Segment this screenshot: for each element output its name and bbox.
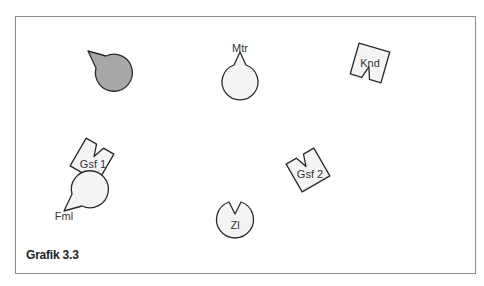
shape-unlabeled-circle: [88, 51, 132, 91]
shape-fml-circle: Fml: [55, 171, 109, 222]
shape-label-gsf2: Gsf 2: [297, 168, 323, 180]
shape-zl-circle: Zl: [217, 202, 254, 238]
shape-label-knd: Knd: [360, 57, 380, 69]
family-diagram: Mtr Knd Gsf 1 Gsf 2 Fml Zl: [0, 0, 484, 286]
shape-label-mtr: Mtr: [232, 42, 248, 54]
shape-label-fml: Fml: [55, 210, 73, 222]
shape-label-gsf1: Gsf 1: [80, 158, 106, 170]
shape-mtr-circle: Mtr: [222, 42, 258, 100]
figure-caption: Grafik 3.3: [26, 248, 79, 262]
shape-label-zl: Zl: [230, 219, 239, 231]
